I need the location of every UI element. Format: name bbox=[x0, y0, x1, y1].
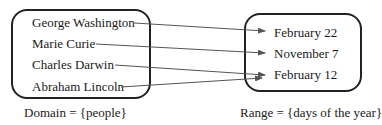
arrow-gw-feb22 bbox=[134, 23, 265, 31]
arrow-al-feb12 bbox=[121, 78, 262, 87]
domain-caption: Domain = {people} bbox=[24, 106, 127, 120]
arrow-cd-feb12 bbox=[115, 65, 265, 75]
arrow-mc-nov7 bbox=[96, 44, 265, 53]
range-caption: Range = {days of the year} bbox=[240, 106, 382, 120]
